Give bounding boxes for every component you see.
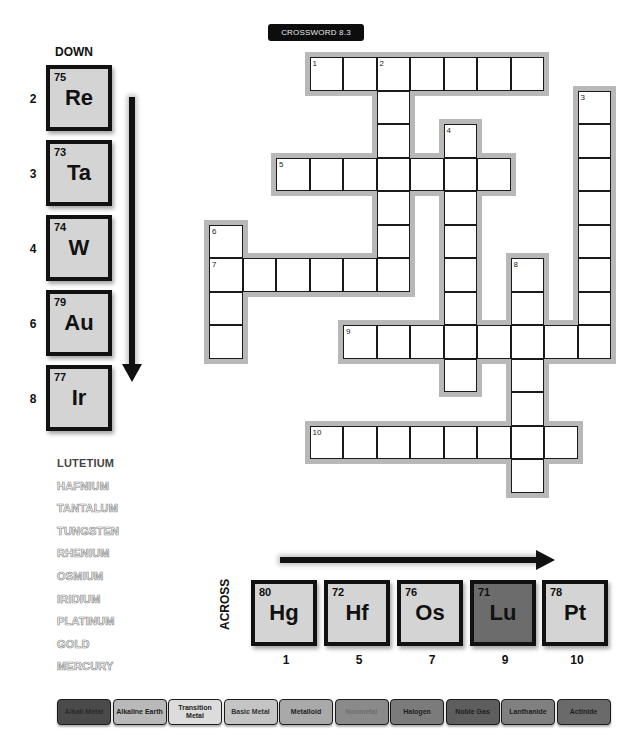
crossword-cell[interactable] [477, 426, 511, 460]
atomic-number: 74 [54, 221, 66, 233]
element-symbol: Hg [255, 600, 313, 626]
element-tile-os: 76Os [397, 580, 463, 646]
crossword-cell[interactable] [578, 258, 612, 292]
crossword-cell[interactable] [511, 359, 545, 393]
crossword-cell[interactable] [444, 57, 478, 91]
legend-item-alkaline-earth: Alkaline Earth [113, 699, 167, 725]
atomic-number: 80 [259, 586, 271, 598]
word-bank-item: HAFNIUM [57, 478, 119, 501]
crossword-cell[interactable] [578, 325, 612, 359]
element-symbol: Ir [50, 385, 108, 411]
element-tile-au: 79Au [46, 290, 112, 356]
clue-start-number: 9 [346, 327, 350, 336]
down-arrowhead-icon [122, 364, 142, 382]
crossword-cell[interactable] [310, 158, 344, 192]
word-bank-item: PLATINUM [57, 613, 119, 636]
legend-item-transition-metal: Transition Metal [168, 699, 222, 725]
word-bank-item: LUTETIUM [57, 455, 119, 478]
crossword-cell[interactable] [410, 57, 444, 91]
crossword-cell[interactable] [444, 225, 478, 259]
crossword-cell[interactable] [243, 258, 277, 292]
crossword-cell[interactable] [343, 57, 377, 91]
crossword-cell[interactable] [310, 258, 344, 292]
crossword-cell[interactable] [343, 158, 377, 192]
crossword-cell[interactable] [209, 292, 243, 326]
crossword-cell[interactable]: 5 [276, 158, 310, 192]
down-arrow-icon [129, 97, 135, 367]
crossword-cell[interactable]: 4 [444, 124, 478, 158]
crossword-cell[interactable] [209, 325, 243, 359]
crossword-cell[interactable] [377, 124, 411, 158]
crossword-cell[interactable] [578, 124, 612, 158]
crossword-cell[interactable]: 3 [578, 91, 612, 125]
crossword-cell[interactable] [377, 258, 411, 292]
across-clue-number: 1 [276, 653, 296, 667]
crossword-cell[interactable] [578, 191, 612, 225]
crossword-cell[interactable] [377, 191, 411, 225]
crossword-cell[interactable]: 10 [310, 426, 344, 460]
crossword-cell[interactable]: 6 [209, 225, 243, 259]
crossword-cell[interactable] [511, 459, 545, 493]
crossword-cell[interactable] [276, 258, 310, 292]
puzzle-title: CROSSWORD 8.3 [268, 24, 364, 41]
atomic-number: 79 [54, 296, 66, 308]
crossword-cell[interactable] [477, 158, 511, 192]
crossword-cell[interactable] [444, 292, 478, 326]
crossword-cell[interactable] [377, 158, 411, 192]
crossword-cell[interactable] [578, 158, 612, 192]
crossword-cell[interactable]: 9 [343, 325, 377, 359]
clue-start-number: 6 [212, 227, 216, 236]
element-tile-pt: 78Pt [542, 580, 608, 646]
crossword-cell[interactable] [444, 426, 478, 460]
atomic-number: 72 [332, 586, 344, 598]
word-bank-item: RHENIUM [57, 545, 119, 568]
crossword-cell[interactable] [377, 426, 411, 460]
crossword-cell[interactable] [444, 325, 478, 359]
crossword-cell[interactable] [377, 325, 411, 359]
down-clue-number: 6 [25, 317, 41, 331]
crossword-cell[interactable] [444, 258, 478, 292]
crossword-cell[interactable] [410, 158, 444, 192]
crossword-cell[interactable] [377, 225, 411, 259]
crossword-cell[interactable] [544, 426, 578, 460]
crossword-cell[interactable] [444, 158, 478, 192]
crossword-cell[interactable] [343, 258, 377, 292]
crossword-cell[interactable] [511, 392, 545, 426]
legend-item-noble-gas: Noble Gas [446, 699, 500, 725]
crossword-cell[interactable]: 8 [511, 258, 545, 292]
atomic-number: 71 [478, 586, 490, 598]
legend-item-lanthanide: Lanthanide [501, 699, 555, 725]
element-symbol: Ta [50, 160, 108, 186]
crossword-cell[interactable]: 1 [310, 57, 344, 91]
crossword-cell[interactable] [477, 57, 511, 91]
across-arrow-icon [280, 557, 538, 563]
crossword-cell[interactable] [511, 292, 545, 326]
crossword-cell[interactable] [410, 426, 444, 460]
crossword-cell[interactable] [377, 91, 411, 125]
crossword-cell[interactable] [444, 191, 478, 225]
crossword-cell[interactable] [511, 325, 545, 359]
crossword-cell[interactable]: 7 [209, 258, 243, 292]
crossword-cell[interactable] [578, 225, 612, 259]
crossword-cell[interactable]: 2 [377, 57, 411, 91]
crossword-cell[interactable] [544, 325, 578, 359]
element-symbol: Os [401, 600, 459, 626]
legend-item-nonmetal: Nonmetal [335, 699, 389, 725]
crossword-cell[interactable] [511, 426, 545, 460]
crossword-cell[interactable] [511, 57, 545, 91]
across-label: ACROSS [218, 579, 232, 630]
down-clue-number: 8 [25, 392, 41, 406]
legend-item-basic-metal: Basic Metal [224, 699, 278, 725]
crossword-cell[interactable] [578, 292, 612, 326]
crossword-cell[interactable] [444, 359, 478, 393]
word-bank-item: TUNGSTEN [57, 523, 119, 546]
legend-item-halogen: Halogen [390, 699, 444, 725]
crossword-cell[interactable] [410, 325, 444, 359]
crossword-cell[interactable] [343, 426, 377, 460]
word-bank-item: MERCURY [57, 658, 119, 681]
element-symbol: W [50, 235, 108, 261]
down-clue-number: 3 [25, 167, 41, 181]
crossword-cell[interactable] [477, 325, 511, 359]
across-clue-number: 5 [349, 653, 369, 667]
clue-start-number: 2 [380, 59, 384, 68]
